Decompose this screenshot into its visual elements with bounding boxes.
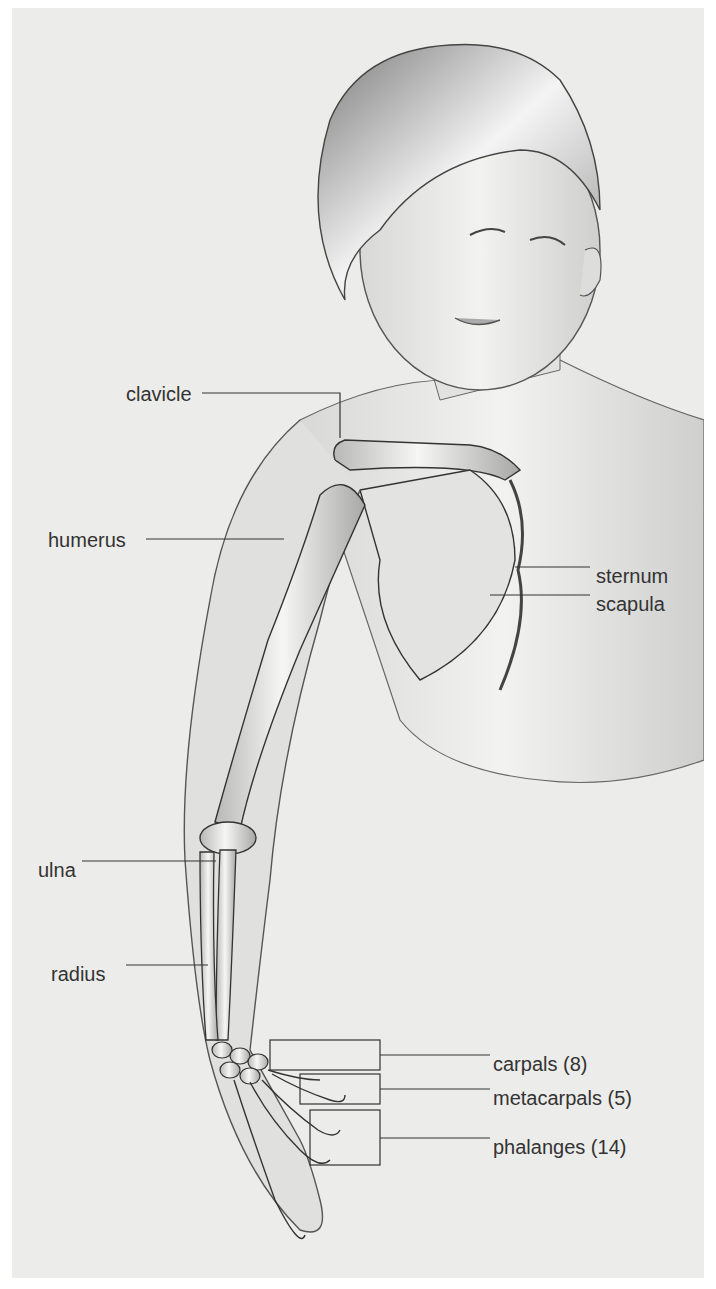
label-radius: radius [51, 964, 105, 984]
label-ulna: ulna [38, 860, 76, 880]
figure-page: clavicle humerus sternum scapula ulna ra… [12, 8, 704, 1278]
elbow-joint [200, 822, 256, 854]
label-humerus: humerus [48, 530, 126, 550]
label-carpals: carpals (8) [493, 1054, 587, 1074]
label-metacarpals: metacarpals (5) [493, 1088, 632, 1108]
label-clavicle: clavicle [126, 384, 192, 404]
label-sternum: sternum [596, 566, 668, 586]
label-scapula: scapula [596, 594, 665, 614]
label-phalanges: phalanges (14) [493, 1137, 626, 1157]
